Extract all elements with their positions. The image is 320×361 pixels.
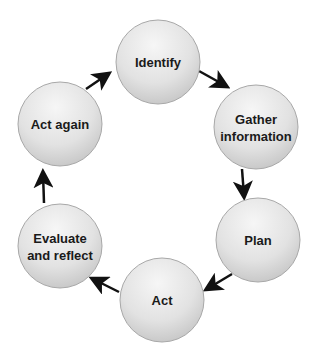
node-label: Evaluate xyxy=(33,231,86,246)
node-label: and reflect xyxy=(27,248,93,263)
arrow-evaluate-to-act-again xyxy=(43,173,44,203)
arrow-gather-to-plan xyxy=(242,169,244,196)
node-act-again: Act again xyxy=(18,82,102,166)
node-identify: Identify xyxy=(116,20,200,104)
node-label: Identify xyxy=(135,55,182,70)
node-plan: Plan xyxy=(216,198,300,282)
node-circle xyxy=(214,85,298,169)
node-circle xyxy=(18,204,102,288)
arrow-act-again-to-identify xyxy=(86,74,108,89)
node-gather: Gatherinformation xyxy=(214,85,298,169)
node-label: information xyxy=(220,129,292,144)
nodes-layer: IdentifyGatherinformationPlanActEvaluate… xyxy=(18,20,300,342)
node-evaluate: Evaluateand reflect xyxy=(18,204,102,288)
node-label: Act xyxy=(152,293,174,308)
cycle-diagram: IdentifyGatherinformationPlanActEvaluate… xyxy=(0,0,320,361)
arrow-act-to-evaluate xyxy=(93,279,119,292)
node-label: Gather xyxy=(235,112,277,127)
arrow-plan-to-act xyxy=(207,274,232,289)
node-label: Act again xyxy=(31,117,90,132)
arrow-identify-to-gather xyxy=(199,71,226,86)
node-label: Plan xyxy=(244,233,272,248)
node-act: Act xyxy=(120,258,204,342)
